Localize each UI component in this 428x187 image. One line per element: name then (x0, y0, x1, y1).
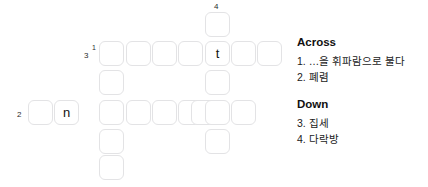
cell-r3c2[interactable] (152, 100, 177, 125)
cell-r3c4[interactable] (205, 100, 230, 125)
cell-r3c1[interactable] (126, 100, 151, 125)
cell-r3c5[interactable] (231, 100, 256, 125)
cell-r4c4[interactable] (205, 129, 230, 154)
grid-number-3: 3 (84, 52, 88, 60)
clue-group-across: Across 1. …을 휘파람으로 불다 2. 폐렴 (297, 36, 425, 85)
cell-r1c4[interactable]: t (205, 41, 230, 66)
cell-r1c5[interactable] (231, 41, 256, 66)
cell-r2c4[interactable] (205, 70, 230, 95)
clue-panel: Across 1. …을 휘파람으로 불다 2. 폐렴 Down 3. 집세 4… (297, 36, 425, 148)
grid-number-1: 1 (92, 44, 96, 51)
cell-r1c1[interactable] (126, 41, 151, 66)
cell-r2c0[interactable] (99, 70, 124, 95)
across-heading: Across (297, 36, 425, 50)
down-clue-4[interactable]: 4. 다락방 (297, 132, 425, 148)
grid-number-2: 2 (17, 111, 21, 119)
cell-r0c4[interactable] (205, 12, 230, 37)
cell-r3m2[interactable] (28, 100, 53, 125)
cell-r1c0[interactable] (99, 41, 124, 66)
cell-r5c0[interactable] (99, 155, 124, 180)
cell-r3c0[interactable] (99, 100, 124, 125)
cell-r4c0[interactable] (99, 129, 124, 154)
grid-number-4: 4 (214, 3, 218, 11)
across-clue-1[interactable]: 1. …을 휘파람으로 불다 (297, 54, 425, 70)
cell-r3m1[interactable]: n (54, 100, 79, 125)
cell-r1c6[interactable] (257, 41, 282, 66)
down-clue-3[interactable]: 3. 집세 (297, 116, 425, 132)
cell-r1c3[interactable] (178, 41, 203, 66)
clue-group-down: Down 3. 집세 4. 다락방 (297, 98, 425, 147)
down-heading: Down (297, 98, 425, 112)
across-clue-2[interactable]: 2. 폐렴 (297, 70, 425, 86)
cell-r1c2[interactable] (152, 41, 177, 66)
